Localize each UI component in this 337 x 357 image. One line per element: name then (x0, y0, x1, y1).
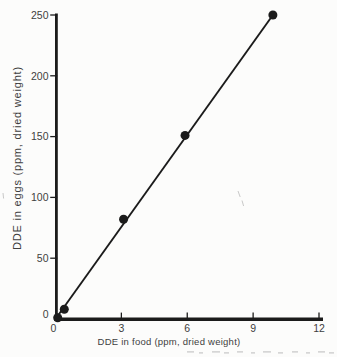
cutoff-caption-fragment (187, 351, 194, 353)
cutoff-caption-fragment (199, 352, 203, 354)
y-tick-label: 150 (31, 130, 49, 142)
data-point (181, 131, 190, 140)
x-tick-label: 12 (313, 322, 325, 334)
cutoff-caption-fragment (251, 352, 255, 354)
y-axis-label: DDE in eggs (ppm, dried weight) (11, 66, 23, 250)
y-tick-label: 200 (31, 70, 49, 82)
cutoff-caption-fragment (237, 351, 243, 353)
scan-speck (242, 201, 244, 207)
cutoff-caption-fragment (224, 352, 229, 354)
fit-line (56, 15, 273, 319)
x-tick-label: 9 (250, 322, 256, 334)
y-tick-label: 50 (37, 252, 49, 264)
scanned-figure-page: 036912050100150200250 DDE in food (ppm, … (0, 0, 337, 357)
dde-scatter-chart: 036912050100150200250 DDE in food (ppm, … (0, 0, 337, 357)
x-tick-label: 3 (118, 322, 124, 334)
cutoff-caption-fragment (263, 351, 271, 353)
data-series (53, 11, 277, 323)
data-point (268, 11, 277, 20)
cutoff-caption-fragment (292, 351, 298, 353)
axes (50, 14, 323, 321)
x-tick-label: 0 (51, 322, 57, 334)
data-point (119, 215, 128, 224)
y-tick-label: 250 (31, 9, 49, 21)
cutoff-caption-fragment (306, 352, 310, 354)
tick-labels: 036912050100150200250 (31, 9, 325, 334)
data-point (60, 305, 69, 314)
y-tick-label: 100 (31, 191, 49, 203)
scan-speck (238, 191, 240, 197)
cutoff-caption-fragment (329, 352, 334, 354)
x-axis-label: DDE in food (ppm, dried weight) (98, 336, 241, 347)
cutoff-caption-fragment (278, 352, 283, 354)
cutoff-caption-fragment (212, 351, 220, 353)
scan-speck (3, 193, 4, 199)
cutoff-caption-fragment (318, 351, 325, 353)
x-tick-label: 6 (184, 322, 190, 334)
y-tick-label: 0 (43, 308, 49, 320)
